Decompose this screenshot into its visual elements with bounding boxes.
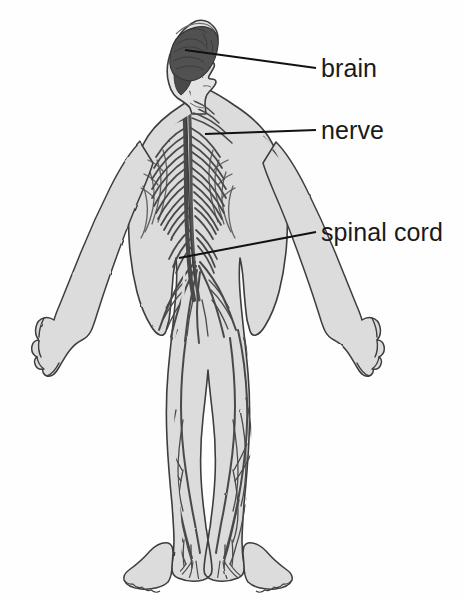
label-nerve: nerve	[321, 118, 384, 143]
human-figure-illustration	[0, 0, 462, 601]
right-foot	[243, 543, 292, 589]
nervous-system-diagram: brain nerve spinal cord	[0, 0, 462, 601]
left-foot	[124, 543, 173, 589]
label-spinal-cord: spinal cord	[321, 220, 443, 245]
label-brain: brain	[321, 56, 377, 81]
body-silhouette	[32, 20, 385, 592]
